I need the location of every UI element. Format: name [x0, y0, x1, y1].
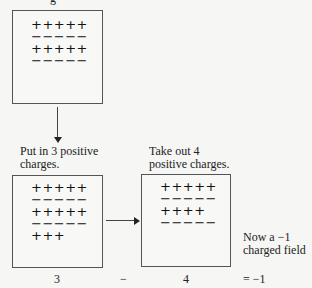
- cutoff-text-fragment: g: [50, 0, 56, 6]
- note-line: charged field: [243, 244, 306, 257]
- minus-operator: −: [120, 272, 127, 287]
- caption-line: positive charges.: [149, 158, 229, 171]
- take-out-caption: Take out 4 positive charges.: [149, 145, 229, 171]
- down-arrow-icon: [54, 137, 62, 143]
- charge-row: −−−−−: [31, 55, 102, 67]
- caption-line: charges.: [20, 158, 98, 171]
- charge-row: −−−−−: [160, 217, 230, 229]
- removed-charges-box: +++++ −−−−− ++++ −−−−−: [141, 174, 231, 267]
- initial-field-box: +++++ −−−−− +++++ −−−−−: [12, 10, 103, 104]
- down-arrow-line: [57, 107, 58, 139]
- added-charges-box: +++++ −−−−− +++++ −−−−− +++: [12, 175, 103, 268]
- charge-row: +++: [31, 230, 102, 242]
- put-in-caption: Put in 3 positive charges.: [20, 145, 98, 171]
- added-value: 3: [54, 272, 60, 287]
- result-note: Now a −1 charged field: [243, 231, 306, 257]
- right-arrow-icon: [134, 217, 140, 225]
- removed-value: 4: [183, 272, 189, 287]
- result-equation: = −1: [243, 272, 266, 287]
- right-arrow-line: [106, 220, 136, 221]
